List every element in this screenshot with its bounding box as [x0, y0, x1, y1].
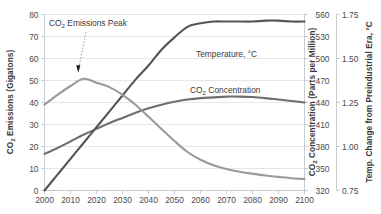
- climate-projection-chart: 2000201020202030204020502060207020802090…: [0, 0, 381, 214]
- x-tick-label: 2000: [35, 195, 54, 205]
- right-inner-tick-label: 320: [316, 186, 330, 196]
- left-tick-label: 10: [29, 164, 39, 174]
- x-tick-label: 2090: [269, 195, 288, 205]
- series-label-temperature: Temperature, °C: [196, 49, 257, 59]
- right-outer-tick-label: 1.00: [342, 142, 359, 152]
- right-inner-tick-label: 530: [316, 32, 330, 42]
- annotation-label-co2-emissions-peak: CO2 Emissions Peak: [49, 18, 128, 29]
- left-tick-label: 20: [29, 142, 39, 152]
- right-outer-tick-label: 0.75: [342, 186, 359, 196]
- right-inner-tick-label: 470: [316, 76, 330, 86]
- x-tick-label: 2010: [61, 195, 80, 205]
- left-tick-label: 40: [29, 98, 39, 108]
- right-outer-tick-label: 1.25: [342, 98, 359, 108]
- right-outer-axis-title: Temp. Change from Preindustrial Era, °C: [365, 21, 374, 183]
- left-tick-label: 0: [34, 186, 39, 196]
- right-inner-tick-label: 560: [316, 10, 330, 20]
- right-inner-tick-label: 380: [316, 142, 330, 152]
- right-outer-tick-label: 1.50: [342, 54, 359, 64]
- series-label-co2-concentration: CO2 Concentration: [190, 85, 261, 96]
- left-tick-label: 30: [29, 120, 39, 130]
- x-tick-label: 2020: [87, 195, 106, 205]
- x-tick-label: 2040: [139, 195, 158, 205]
- right-inner-axis-title: CO2 Concentration (Parts per Million): [308, 28, 318, 177]
- left-tick-label: 50: [29, 76, 39, 86]
- x-tick-label: 2030: [113, 195, 132, 205]
- x-tick-label: 2050: [165, 195, 184, 205]
- x-tick-label: 2100: [295, 195, 314, 205]
- right-inner-tick-label: 350: [316, 164, 330, 174]
- x-tick-label: 2070: [217, 195, 236, 205]
- right-inner-tick-label: 440: [316, 98, 330, 108]
- left-axis-title: CO2 Emissions (Gigatons): [6, 50, 16, 155]
- left-tick-label: 70: [29, 32, 39, 42]
- left-tick-label: 60: [29, 54, 39, 64]
- chart-canvas: 2000201020202030204020502060207020802090…: [0, 0, 381, 214]
- right-inner-tick-label: 410: [316, 120, 330, 130]
- right-outer-tick-label: 1.75: [342, 10, 359, 20]
- right-inner-tick-label: 500: [316, 54, 330, 64]
- left-tick-label: 80: [29, 10, 39, 20]
- x-tick-label: 2080: [243, 195, 262, 205]
- x-tick-label: 2060: [191, 195, 210, 205]
